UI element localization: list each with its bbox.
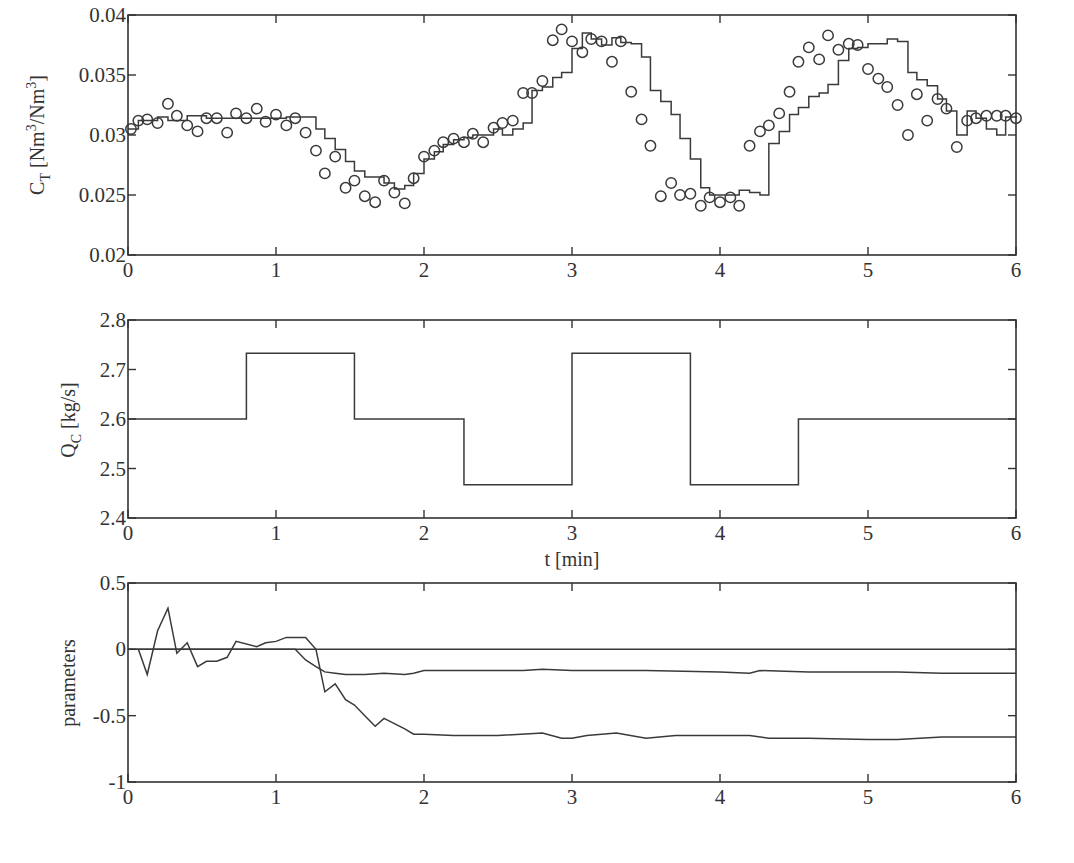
qc-y-axis-label: QC [kg/s]: [57, 382, 84, 457]
data-point-marker: [873, 73, 883, 83]
data-point-marker: [320, 168, 330, 178]
data-point-marker: [508, 115, 518, 125]
x-tick-label: 5: [863, 521, 874, 545]
y-tick-label: 2.7: [100, 358, 126, 382]
data-point-marker: [311, 145, 321, 155]
x-tick-label: 1: [271, 521, 282, 545]
qc-x-axis-label: t [min]: [545, 548, 600, 570]
data-point-marker: [497, 118, 507, 128]
data-point-marker: [892, 100, 902, 110]
qc-ticks: 01234562.42.52.62.72.8: [100, 308, 1022, 545]
data-point-marker: [172, 111, 182, 121]
data-point-marker: [222, 127, 232, 137]
data-point-marker: [537, 76, 547, 86]
data-point-marker: [814, 54, 824, 64]
data-point-marker: [192, 126, 202, 136]
data-point-marker: [793, 57, 803, 67]
data-point-marker: [685, 189, 695, 199]
data-point-marker: [903, 130, 913, 140]
x-tick-label: 3: [567, 258, 578, 282]
x-tick-label: 4: [715, 521, 726, 545]
data-point-marker: [340, 183, 350, 193]
params-axes-frame: [128, 583, 1016, 782]
data-point-marker: [645, 141, 655, 151]
data-point-marker: [666, 178, 676, 188]
data-point-marker: [833, 45, 843, 55]
qc-plot: 01234562.42.52.62.72.8 QC [kg/s] t [min]: [57, 308, 1021, 570]
x-tick-label: 3: [567, 521, 578, 545]
x-tick-label: 5: [863, 785, 874, 809]
params-series: [128, 608, 1016, 739]
step-series-line: [128, 353, 1016, 485]
data-point-marker: [675, 190, 685, 200]
params-y-axis-label: parameters: [57, 639, 80, 727]
data-point-marker: [252, 103, 262, 113]
data-point-marker: [774, 108, 784, 118]
data-point-marker: [912, 89, 922, 99]
y-tick-label: -1: [109, 770, 127, 794]
y-tick-label: 0.5: [100, 571, 126, 595]
ct-plot: 01234560.020.0250.030.0350.04 CT [Nm3/Nm…: [24, 3, 1021, 282]
data-point-marker: [922, 115, 932, 125]
data-point-marker: [764, 120, 774, 130]
data-point-marker: [863, 64, 873, 74]
data-point-marker: [300, 127, 310, 137]
params-plot: 0123456-1-0.500.5 parameters: [57, 571, 1021, 809]
data-point-marker: [804, 42, 814, 52]
y-tick-label: 2.4: [100, 506, 127, 530]
data-point-marker: [636, 114, 646, 124]
y-tick-label: 0.035: [79, 63, 126, 87]
data-point-marker: [231, 108, 241, 118]
data-point-marker: [360, 191, 370, 201]
data-point-marker: [548, 35, 558, 45]
data-point-marker: [163, 99, 173, 109]
ct-y-axis-label: CT [Nm3/Nm3]: [24, 75, 53, 195]
data-point-marker: [882, 82, 892, 92]
y-tick-label: 2.8: [100, 308, 126, 332]
data-point-marker: [952, 142, 962, 152]
data-point-marker: [370, 197, 380, 207]
y-tick-label: 0.02: [89, 243, 126, 267]
figure: 01234560.020.0250.030.0350.04 CT [Nm3/Nm…: [0, 0, 1074, 863]
data-point-marker: [281, 120, 291, 130]
step-series-line: [128, 33, 1016, 195]
x-tick-label: 4: [715, 785, 726, 809]
data-point-marker: [734, 201, 744, 211]
data-point-marker: [567, 36, 577, 46]
data-point-marker: [400, 198, 410, 208]
params-ticks: 0123456-1-0.500.5: [93, 571, 1022, 809]
x-tick-label: 2: [419, 785, 430, 809]
data-point-marker: [715, 197, 725, 207]
data-point-marker: [626, 87, 636, 97]
data-point-marker: [478, 137, 488, 147]
x-tick-label: 1: [271, 258, 282, 282]
data-point-marker: [784, 87, 794, 97]
y-tick-label: 0.04: [89, 3, 126, 27]
data-point-marker: [607, 57, 617, 67]
data-point-marker: [182, 120, 192, 130]
data-point-marker: [349, 175, 359, 185]
x-tick-label: 3: [567, 785, 578, 809]
x-tick-label: 1: [271, 785, 282, 809]
data-point-marker: [744, 141, 754, 151]
y-tick-label: 0.025: [79, 183, 126, 207]
qc-series: [128, 353, 1016, 485]
y-tick-label: -0.5: [93, 704, 126, 728]
data-point-marker: [823, 30, 833, 40]
data-point-marker: [725, 192, 735, 202]
y-tick-label: 2.5: [100, 457, 126, 481]
x-tick-label: 2: [419, 521, 430, 545]
x-tick-label: 5: [863, 258, 874, 282]
x-tick-label: 6: [1011, 521, 1022, 545]
x-tick-label: 6: [1011, 258, 1022, 282]
data-point-marker: [696, 201, 706, 211]
series-line: [138, 608, 1016, 739]
data-point-marker: [656, 191, 666, 201]
data-point-marker: [556, 24, 566, 34]
y-tick-label: 2.6: [100, 407, 126, 431]
ct-series: [126, 24, 1021, 211]
y-tick-label: 0: [116, 637, 127, 661]
data-point-marker: [330, 151, 340, 161]
x-tick-label: 2: [419, 258, 430, 282]
x-tick-label: 4: [715, 258, 726, 282]
